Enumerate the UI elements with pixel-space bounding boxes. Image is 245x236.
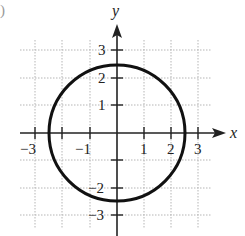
x-tick-label: 1 [140, 141, 148, 157]
x-tick-label: 3 [194, 141, 202, 157]
y-tick-label: −3 [88, 207, 104, 223]
x-tick-label: 2 [167, 141, 175, 157]
x-tick-label: −1 [75, 141, 91, 157]
y-tick-label: 1 [98, 97, 106, 113]
y-tick-label: 3 [98, 42, 106, 58]
y-tick-label: −2 [88, 180, 104, 196]
x-axis-label: x [229, 124, 237, 141]
y-axis-label: y [110, 2, 120, 20]
x-tick-label: −3 [20, 141, 36, 157]
y-tick-label: 2 [98, 70, 106, 86]
circle-graph: ) x y −3 −1 [0, 0, 245, 236]
panel-label: ) [0, 2, 5, 19]
